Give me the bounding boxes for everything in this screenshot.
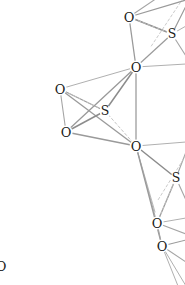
atom-label-o4: O — [60, 126, 73, 139]
atom-label-o6: O — [151, 217, 164, 230]
bond-edge-e6 — [150, 0, 185, 48]
bond-O5-S3-12 — [136, 146, 176, 178]
atom-label-s3: S — [171, 172, 182, 185]
atom-label-o8: O — [0, 260, 7, 273]
atom-label-o2: O — [130, 61, 143, 74]
molecular-structure-diagram: OSOOSOOSOOO — [0, 0, 185, 285]
atom-label-s2: S — [100, 105, 111, 118]
atom-label-o5: O — [130, 140, 143, 153]
atom-label-s1: S — [167, 28, 178, 41]
bond-edge-e7 — [136, 64, 185, 67]
atom-label-o3: O — [54, 83, 67, 96]
bond-O2-S1-2 — [136, 34, 172, 67]
bond-edge-e8 — [136, 142, 185, 146]
bond-O5-O7-14 — [136, 146, 162, 246]
bond-group — [60, 17, 176, 246]
atom-label-o7: O — [156, 240, 169, 253]
bond-O3-O5-9 — [60, 89, 136, 146]
bond-O3-S2-18 — [60, 89, 105, 111]
atom-label-o1: O — [123, 11, 136, 24]
